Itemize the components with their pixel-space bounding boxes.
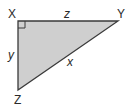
- side-label-y: y: [7, 48, 15, 62]
- vertex-label-z: Z: [14, 93, 21, 107]
- vertex-label-y: Y: [117, 7, 125, 21]
- side-label-x: x: [66, 55, 74, 69]
- side-label-z: z: [63, 7, 70, 21]
- triangle-diagram: X Y Z z y x: [0, 0, 130, 107]
- vertex-label-x: X: [8, 7, 16, 21]
